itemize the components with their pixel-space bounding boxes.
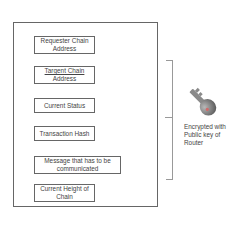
caption-line2: Public key of [184,131,246,139]
field-label-line1: Requester Chain [41,37,89,45]
field-label-line1: Message that has to be [44,157,110,165]
encryption-bracket [165,60,173,180]
field-target-chain-address: Targent Chain Address [34,66,95,84]
bracket-pointer [165,117,173,118]
field-label-line2: Chain [40,193,89,201]
key-icon [186,84,218,120]
field-label-line2: communicated [44,165,110,173]
field-label-line1: Targent Chain [45,67,85,75]
encryption-caption: Encrypted with Public key of Router [184,123,246,147]
field-label: Current Status [44,102,85,110]
caption-line3: Router [184,139,246,147]
caption-line1: Encrypted with [184,123,246,131]
field-requester-chain-address: Requester Chain Address [34,36,95,54]
field-current-height-of-chain: Current Height of Chain [34,184,95,202]
field-current-status: Current Status [34,98,95,113]
field-label-line2: Address [45,75,85,83]
field-label: Transaction Hash [40,130,90,138]
field-label-line2: Address [41,45,89,53]
field-message-to-communicate: Message that has to be communicated [34,156,121,174]
field-label-line1: Current Height of [40,185,89,193]
field-transaction-hash: Transaction Hash [34,126,95,141]
